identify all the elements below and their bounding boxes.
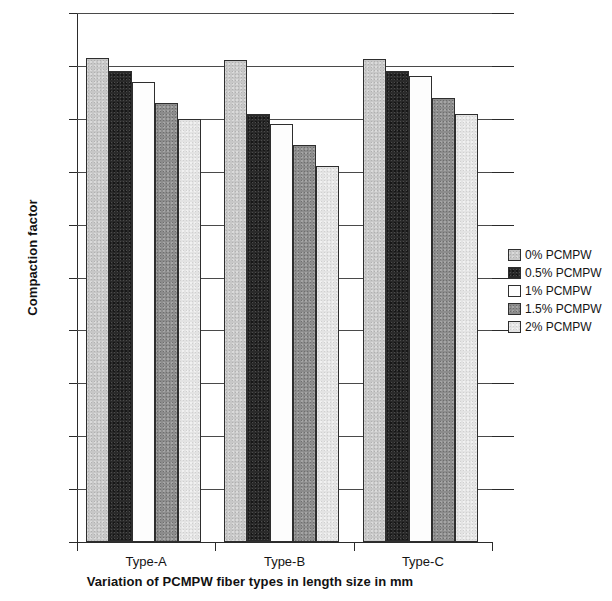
legend-label: 0% PCMPW	[525, 249, 592, 261]
y-tick-extension	[492, 172, 514, 173]
bar	[432, 98, 455, 542]
y-tick-extension	[492, 436, 514, 437]
legend-label: 2% PCMPW	[525, 321, 592, 333]
bar	[455, 114, 478, 542]
y-tick-mark	[69, 278, 77, 279]
legend-swatch	[508, 249, 521, 261]
gridline	[77, 66, 492, 67]
legend-item: 1.5% PCMPW	[508, 301, 602, 317]
x-tick-label: Type-A	[86, 554, 206, 569]
y-tick-extension	[492, 13, 514, 14]
y-tick-extension	[492, 225, 514, 226]
y-tick-extension	[492, 119, 514, 120]
y-tick-mark	[69, 489, 77, 490]
x-tick-mark	[215, 542, 216, 551]
plot-area: 00.10.20.30.40.50.60.70.80.91 Type-AType…	[77, 13, 492, 542]
y-tick-extension	[492, 66, 514, 67]
x-axis-line	[77, 542, 493, 543]
y-tick-mark	[69, 172, 77, 173]
y-tick-extension	[492, 489, 514, 490]
bar	[316, 166, 339, 542]
legend-swatch	[508, 321, 521, 333]
bar	[132, 82, 155, 542]
legend-swatch	[508, 285, 521, 297]
legend: 0% PCMPW0.5% PCMPW1% PCMPW1.5% PCMPW2% P…	[508, 247, 602, 337]
y-tick-mark	[69, 330, 77, 331]
compaction-factor-bar-chart: Compaction factor 00.10.20.30.40.50.60.7…	[0, 0, 612, 601]
legend-label: 1% PCMPW	[525, 285, 592, 297]
y-tick-mark	[69, 436, 77, 437]
y-tick-mark	[69, 542, 77, 543]
legend-label: 0.5% PCMPW	[525, 267, 602, 279]
bar	[270, 124, 293, 542]
bar	[86, 58, 109, 542]
bar	[386, 71, 409, 542]
legend-item: 0.5% PCMPW	[508, 265, 602, 281]
x-tick-label: Type-B	[225, 554, 345, 569]
legend-item: 0% PCMPW	[508, 247, 602, 263]
y-tick-mark	[69, 119, 77, 120]
y-tick-mark	[69, 225, 77, 226]
x-tick-label: Type-C	[363, 554, 483, 569]
bar	[109, 71, 132, 542]
y-axis-title: Compaction factor	[25, 148, 40, 368]
x-tick-mark	[492, 542, 493, 551]
bar	[224, 60, 247, 542]
x-tick-mark	[77, 542, 78, 551]
bar	[155, 103, 178, 542]
y-tick-mark	[69, 13, 77, 14]
bar	[363, 59, 386, 542]
legend-swatch	[508, 303, 521, 315]
gridline	[77, 13, 492, 14]
bar	[178, 119, 201, 542]
y-tick-extension	[492, 383, 514, 384]
x-axis-title: Variation of PCMPW fiber types in length…	[0, 574, 500, 589]
legend-label: 1.5% PCMPW	[525, 303, 602, 315]
bar	[409, 76, 432, 542]
legend-swatch	[508, 267, 521, 279]
x-tick-mark	[354, 542, 355, 551]
y-tick-mark	[69, 383, 77, 384]
y-tick-mark	[69, 66, 77, 67]
bar	[247, 114, 270, 542]
legend-item: 1% PCMPW	[508, 283, 602, 299]
legend-item: 2% PCMPW	[508, 319, 602, 335]
bar	[293, 145, 316, 542]
